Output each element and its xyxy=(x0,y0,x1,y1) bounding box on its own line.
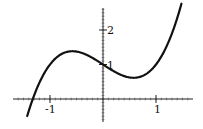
y-tick-label-2: 2 xyxy=(107,24,114,37)
function-plot: -1 1 1 2 xyxy=(0,0,203,129)
y-tick-label-1: 1 xyxy=(107,59,114,72)
x-tick-label-1: 1 xyxy=(154,103,161,116)
x-tick-label-neg1: -1 xyxy=(45,103,56,116)
